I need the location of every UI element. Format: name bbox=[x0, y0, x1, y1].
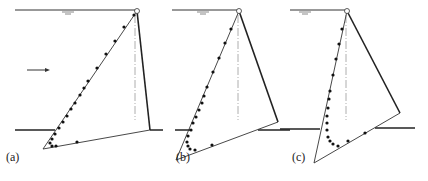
data-point bbox=[327, 97, 330, 100]
pivot-hinge-icon bbox=[135, 9, 140, 14]
data-point bbox=[193, 148, 196, 151]
downstream-face-line bbox=[137, 11, 150, 130]
data-point bbox=[334, 57, 337, 60]
data-point bbox=[61, 120, 64, 123]
data-point bbox=[75, 140, 78, 143]
data-point bbox=[331, 142, 334, 145]
data-point bbox=[346, 139, 349, 142]
data-point bbox=[82, 86, 85, 89]
data-point bbox=[48, 141, 51, 144]
data-point bbox=[200, 101, 203, 104]
data-point bbox=[50, 144, 53, 147]
panel-c bbox=[280, 9, 415, 164]
data-point bbox=[211, 70, 214, 73]
panel-a bbox=[15, 9, 163, 150]
data-point bbox=[73, 101, 76, 104]
data-point bbox=[325, 121, 328, 124]
data-point bbox=[86, 79, 89, 82]
pivot-hinge-icon bbox=[237, 9, 242, 14]
data-point bbox=[326, 106, 329, 109]
data-point bbox=[202, 94, 205, 97]
upstream-face-line bbox=[43, 11, 137, 149]
data-point bbox=[223, 41, 226, 44]
data-point bbox=[210, 143, 213, 146]
data-point bbox=[78, 93, 81, 96]
data-point bbox=[122, 25, 125, 28]
data-point bbox=[217, 56, 220, 59]
data-point bbox=[205, 85, 208, 88]
data-point bbox=[337, 42, 340, 45]
data-point bbox=[331, 73, 334, 76]
data-point bbox=[53, 132, 56, 135]
data-point bbox=[65, 114, 68, 117]
data-point bbox=[325, 128, 328, 131]
data-point bbox=[132, 13, 135, 16]
data-point bbox=[363, 131, 366, 134]
data-point bbox=[54, 144, 57, 147]
panel-label: (b) bbox=[176, 150, 190, 165]
water-level-icon bbox=[197, 12, 209, 14]
panel-b bbox=[172, 9, 290, 161]
panel-label: (c) bbox=[292, 150, 305, 165]
data-point bbox=[113, 39, 116, 42]
data-point bbox=[197, 108, 200, 111]
data-point bbox=[57, 126, 60, 129]
data-point bbox=[326, 135, 329, 138]
data-point bbox=[69, 107, 72, 110]
data-point bbox=[328, 139, 331, 142]
data-point bbox=[325, 114, 328, 117]
data-point bbox=[189, 128, 192, 131]
data-point bbox=[50, 137, 53, 140]
panel-label: (a) bbox=[6, 150, 19, 165]
data-point bbox=[194, 115, 197, 118]
data-point bbox=[95, 66, 98, 69]
data-point bbox=[185, 140, 188, 143]
data-point bbox=[191, 121, 194, 124]
dam-diagram bbox=[0, 0, 428, 181]
data-point bbox=[336, 144, 339, 147]
data-point bbox=[186, 134, 189, 137]
data-point bbox=[229, 27, 232, 30]
pivot-hinge-icon bbox=[345, 9, 350, 14]
downstream-face-line bbox=[347, 11, 400, 113]
water-level-icon bbox=[299, 12, 311, 14]
base-line bbox=[176, 122, 278, 160]
data-point bbox=[186, 144, 189, 147]
data-point bbox=[340, 27, 343, 30]
downstream-face-line bbox=[239, 11, 278, 122]
data-point bbox=[328, 89, 331, 92]
water-level-icon bbox=[62, 12, 74, 14]
base-line bbox=[43, 130, 150, 149]
arrow-head-icon bbox=[45, 68, 50, 72]
data-point bbox=[104, 52, 107, 55]
